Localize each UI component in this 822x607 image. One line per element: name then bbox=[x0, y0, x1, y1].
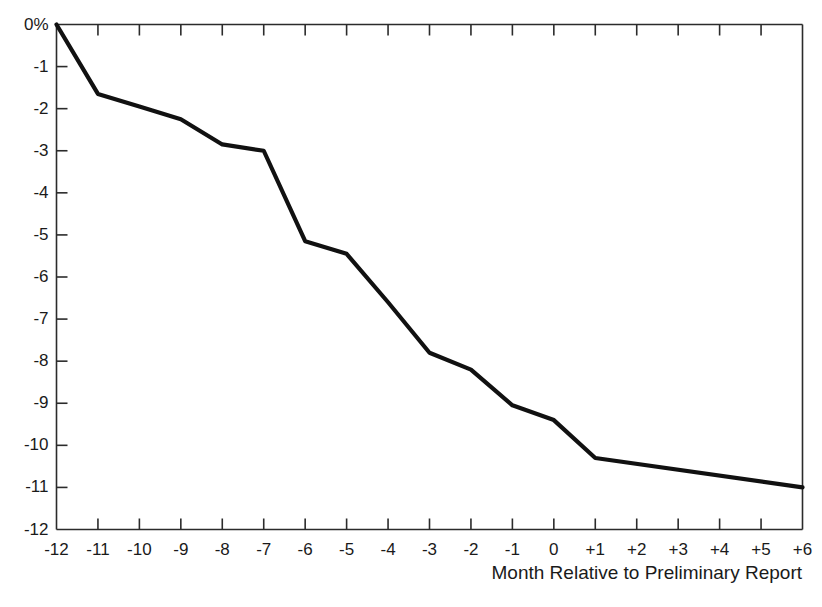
x-tick-label: -2 bbox=[463, 540, 478, 560]
y-tick-label: -8 bbox=[0, 351, 49, 371]
x-tick-label: +5 bbox=[751, 540, 770, 560]
y-tick-label: -12 bbox=[0, 520, 49, 540]
axes-frame bbox=[57, 25, 803, 530]
x-tick-label: +2 bbox=[627, 540, 646, 560]
x-tick-label: -11 bbox=[86, 540, 109, 560]
data-series-line bbox=[57, 25, 803, 488]
x-tick-label: -1 bbox=[505, 540, 520, 560]
x-tick-label: +3 bbox=[668, 540, 687, 560]
x-tick-label: +6 bbox=[793, 540, 812, 560]
y-tick-label: -7 bbox=[0, 309, 49, 329]
y-tick-label: -9 bbox=[0, 393, 49, 413]
x-tick-label: -5 bbox=[339, 540, 354, 560]
x-tick-label: +4 bbox=[710, 540, 729, 560]
x-axis-title: Month Relative to Preliminary Report bbox=[492, 562, 802, 584]
x-tick-label: -7 bbox=[256, 540, 271, 560]
x-tick-label: -3 bbox=[422, 540, 437, 560]
x-tick-label: -9 bbox=[173, 540, 188, 560]
x-tick-label: +1 bbox=[586, 540, 605, 560]
y-tick-label: -3 bbox=[0, 141, 49, 161]
x-tick-label: -10 bbox=[127, 540, 152, 560]
y-axis-ticks bbox=[57, 67, 68, 488]
x-tick-label: -8 bbox=[215, 540, 230, 560]
x-tick-label: -12 bbox=[44, 540, 69, 560]
line-chart-plot bbox=[0, 0, 822, 607]
y-tick-label: 0% bbox=[0, 15, 49, 35]
y-tick-label: -11 bbox=[0, 477, 49, 497]
x-tick-label: -4 bbox=[380, 540, 395, 560]
y-tick-label: -2 bbox=[0, 99, 49, 119]
y-tick-label: -1 bbox=[0, 57, 49, 77]
x-tick-label: 0 bbox=[549, 540, 558, 560]
x-tick-label: -6 bbox=[298, 540, 313, 560]
y-tick-label: -6 bbox=[0, 267, 49, 287]
x-axis-ticks bbox=[98, 25, 761, 530]
chart-figure: 0%-1-2-3-4-5-6-7-8-9-10-11-12 -12-11-10-… bbox=[0, 0, 822, 607]
y-tick-label: -10 bbox=[0, 435, 49, 455]
y-tick-label: -5 bbox=[0, 225, 49, 245]
y-tick-label: -4 bbox=[0, 183, 49, 203]
